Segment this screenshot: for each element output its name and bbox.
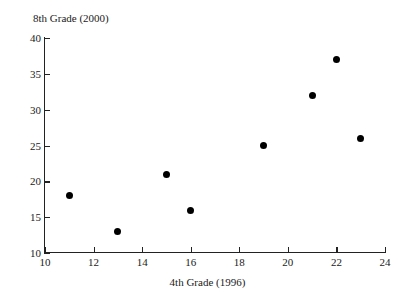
y-tick-label: 25 — [13, 141, 41, 152]
data-point — [260, 142, 267, 149]
x-tick-label: 18 — [224, 257, 254, 268]
x-tick-label: 24 — [370, 257, 400, 268]
x-tick-label: 12 — [79, 257, 109, 268]
plot-area — [45, 38, 385, 253]
data-point — [333, 56, 340, 63]
x-tick-label: 14 — [127, 257, 157, 268]
y-tick-label: 30 — [13, 105, 41, 116]
y-axis-title: 8th Grade (2000) — [33, 12, 109, 25]
x-tick-mark — [385, 247, 386, 252]
x-tick-label: 16 — [176, 257, 206, 268]
scatter-chart: 8th Grade (2000) 10152025303540 10121416… — [0, 0, 415, 297]
data-point — [309, 92, 316, 99]
data-point — [187, 207, 194, 214]
data-point — [66, 192, 73, 199]
data-point — [357, 135, 364, 142]
y-tick-label: 35 — [13, 69, 41, 80]
y-tick-label: 40 — [13, 33, 41, 44]
x-tick-label: 10 — [30, 257, 60, 268]
y-tick-mark — [45, 253, 50, 254]
y-tick-label: 20 — [13, 176, 41, 187]
x-axis-title: 4th Grade (1996) — [0, 276, 415, 289]
y-tick-label: 15 — [13, 212, 41, 223]
data-point — [163, 171, 170, 178]
x-tick-label: 22 — [321, 257, 351, 268]
x-tick-label: 20 — [273, 257, 303, 268]
